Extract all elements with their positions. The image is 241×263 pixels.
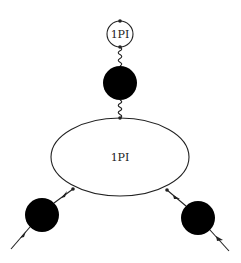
arrow-right-outer-icon: [216, 236, 223, 241]
feynman-diagram: 1PI 1PI: [0, 0, 241, 263]
propagator-blob-left: [25, 198, 59, 232]
wavy-line-lower: [118, 100, 122, 118]
vertex-label: 1PI: [111, 151, 130, 164]
wavy-line-upper: [118, 47, 122, 66]
propagator-blob-right: [181, 201, 215, 235]
tadpole-label: 1PI: [111, 28, 130, 41]
propagator-blob-top: [103, 66, 137, 100]
tadpole-top-dot: [118, 19, 122, 23]
arrow-right-inner-icon: [173, 195, 180, 199]
fermion-line-left-outer: [11, 227, 30, 249]
